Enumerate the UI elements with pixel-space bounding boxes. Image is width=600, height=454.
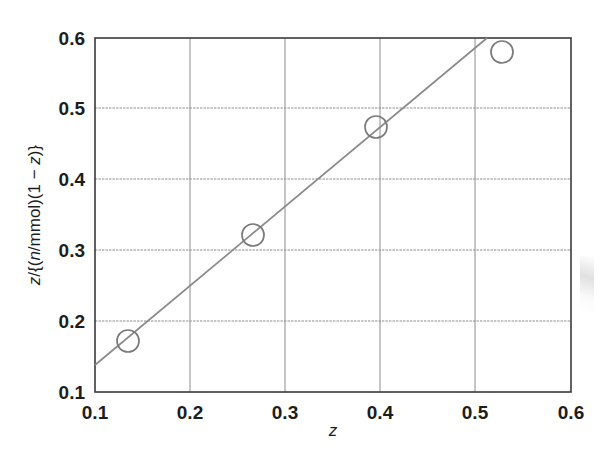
- y-axis-title-z: z: [25, 156, 44, 166]
- y-tick-label-0.2: 0.2: [59, 311, 85, 332]
- plot-frame: [95, 38, 571, 392]
- y-tick-label-0.4: 0.4: [59, 169, 86, 190]
- y-axis-title: z/{(n/mmol)(1 − z)}: [25, 145, 44, 287]
- x-tick-label-0.3: 0.3: [272, 402, 298, 423]
- best-fit-line: [95, 38, 487, 365]
- x-axis-title: z: [328, 421, 338, 440]
- scatter-chart: 0.6 0.5 0.4 0.3 0.2 0.1 0.1 0.2 0.3 0.4 …: [0, 0, 600, 454]
- x-tick-label-0.4: 0.4: [367, 402, 394, 423]
- y-axis-title-lead: z: [25, 276, 44, 286]
- y-tick-label-0.1: 0.1: [59, 382, 86, 403]
- data-markers: [117, 41, 513, 352]
- y-tick-label-0.6: 0.6: [59, 28, 85, 49]
- figure-container: 0.6 0.5 0.4 0.3 0.2 0.1 0.1 0.2 0.3 0.4 …: [0, 0, 600, 454]
- grid-lines: [95, 38, 571, 392]
- y-axis-title-units: /mmol)(1 −: [25, 165, 44, 251]
- y-tick-label-0.5: 0.5: [59, 98, 86, 119]
- y-axis-title-slash: /{(: [25, 260, 44, 276]
- x-tick-label-0.6: 0.6: [558, 402, 584, 423]
- y-axis-title-n: n: [25, 251, 44, 260]
- data-point-1[interactable]: [117, 330, 139, 352]
- x-tick-label-0.5: 0.5: [462, 402, 489, 423]
- y-tick-label-0.3: 0.3: [59, 240, 85, 261]
- x-tick-label-0.1: 0.1: [82, 402, 109, 423]
- x-axis-tick-labels: 0.1 0.2 0.3 0.4 0.5 0.6: [82, 402, 584, 423]
- x-axis-title-symbol: z: [328, 421, 338, 440]
- data-point-3[interactable]: [365, 116, 387, 138]
- x-tick-label-0.2: 0.2: [177, 402, 203, 423]
- data-point-4[interactable]: [491, 41, 513, 63]
- data-point-2[interactable]: [242, 224, 264, 246]
- y-axis-title-tail: )}: [25, 145, 44, 157]
- y-axis-tick-labels: 0.6 0.5 0.4 0.3 0.2 0.1: [59, 28, 86, 403]
